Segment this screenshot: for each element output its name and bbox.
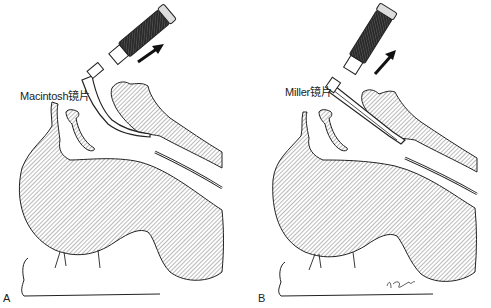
macintosh-blade-label: Macintosh镜片 bbox=[20, 87, 90, 103]
jaw-outline bbox=[279, 262, 433, 296]
epiglottis bbox=[66, 110, 95, 151]
panel-b-miller: Miller镜片 B bbox=[245, 0, 490, 308]
panel-letter-b: B bbox=[258, 292, 265, 304]
arrow-up-icon bbox=[375, 50, 396, 74]
laryngoscope-handle bbox=[107, 4, 177, 67]
laryngoscope-handle bbox=[341, 3, 397, 76]
palate-tissue bbox=[362, 90, 477, 172]
tongue-tissue bbox=[273, 112, 477, 281]
miller-blade-label: Miller镜片 bbox=[285, 83, 332, 99]
artist-signature bbox=[387, 282, 415, 288]
panel-b-illustration bbox=[245, 0, 491, 308]
epiglottis bbox=[319, 110, 348, 151]
handle-base bbox=[87, 62, 104, 78]
panel-letter-a: A bbox=[3, 292, 10, 304]
palate-tissue bbox=[111, 82, 222, 168]
panel-a-illustration bbox=[0, 0, 245, 308]
jaw-outline bbox=[22, 258, 160, 296]
panel-a-macintosh: Macintosh镜片 A bbox=[0, 0, 245, 308]
